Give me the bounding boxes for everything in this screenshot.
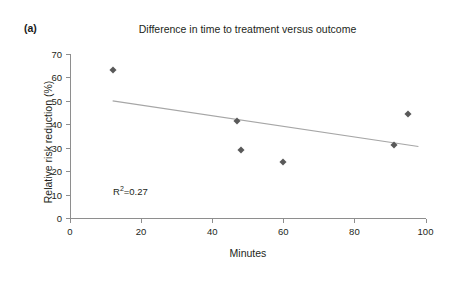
y-tick: [66, 124, 70, 125]
data-point: [280, 158, 287, 165]
x-tick: [212, 219, 213, 223]
y-tick: [66, 148, 70, 149]
x-tick: [70, 219, 71, 223]
y-tick: [66, 77, 70, 78]
r2-prefix: R: [113, 186, 120, 197]
data-point: [109, 67, 116, 74]
y-tick: [66, 101, 70, 102]
x-tick: [354, 219, 355, 223]
x-tick-label: 0: [55, 226, 85, 237]
figure-panel-a: (a) Difference in time to treatment vers…: [0, 0, 461, 281]
x-tick-label: 100: [411, 226, 441, 237]
x-tick: [141, 219, 142, 223]
data-point: [404, 110, 411, 117]
data-point: [390, 142, 397, 149]
x-tick-label: 40: [197, 226, 227, 237]
r-squared-annotation: R2=0.27: [113, 186, 148, 197]
plot-area: 010203040506070 020406080100 Relative ri…: [0, 0, 461, 281]
x-tick-label: 60: [268, 226, 298, 237]
data-point: [237, 147, 244, 154]
r2-value: =0.27: [124, 186, 148, 197]
x-axis-label: Minutes: [70, 247, 426, 259]
x-axis-line: [70, 218, 426, 219]
y-tick: [66, 195, 70, 196]
data-point: [234, 117, 241, 124]
x-tick-label: 80: [339, 226, 369, 237]
x-tick-label: 20: [126, 226, 156, 237]
x-tick: [426, 219, 427, 223]
y-axis-label: Relative risk reduction (%): [42, 47, 54, 237]
y-axis-line: [70, 54, 71, 219]
y-tick: [66, 171, 70, 172]
y-tick: [66, 54, 70, 55]
x-tick: [283, 219, 284, 223]
